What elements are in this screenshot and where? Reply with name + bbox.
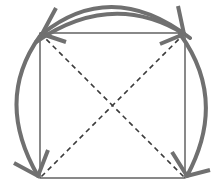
square-circle-diagram (0, 0, 220, 187)
left-arc-to-bottom-left (16, 36, 40, 176)
right-arc-to-bottom-right (180, 34, 206, 176)
